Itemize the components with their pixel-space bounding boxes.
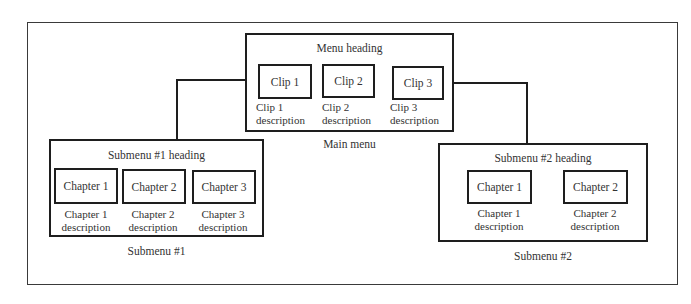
s2-ch1-desc-line2: description (467, 220, 531, 233)
s1-ch1-desc-line1: Chapter 1 (54, 208, 118, 221)
clip-2-button[interactable]: Clip 2 (322, 64, 375, 98)
submenu-1-heading: Submenu #1 heading (49, 149, 264, 161)
submenu-2-chapter-2-label: Chapter 2 (573, 181, 618, 193)
clip-1-label: Clip 1 (271, 76, 299, 88)
s1-ch2-desc-line1: Chapter 2 (121, 208, 185, 221)
submenu-1-chapter-2-button[interactable]: Chapter 2 (122, 169, 186, 204)
clip-3-description: Clip 3 description (390, 101, 452, 127)
connector-right-vertical (526, 82, 528, 144)
clip-1-button[interactable]: Clip 1 (258, 64, 312, 99)
s1-ch3-desc-line1: Chapter 3 (191, 208, 255, 221)
s2-ch2-desc-line2: description (563, 220, 627, 233)
submenu-1-chapter-3-label: Chapter 3 (201, 181, 246, 193)
main-menu-heading: Menu heading (245, 42, 454, 54)
s1-ch1-desc-line2: description (54, 221, 118, 234)
submenu-2-heading: Submenu #2 heading (438, 152, 648, 164)
s2-ch1-desc-line1: Chapter 1 (467, 207, 531, 220)
clip-2-description: Clip 2 description (322, 101, 384, 127)
clip-2-desc-line1: Clip 2 (322, 101, 384, 114)
clip-3-desc-line1: Clip 3 (390, 101, 452, 114)
submenu-1-chapter-3-description: Chapter 3 description (191, 208, 255, 234)
submenu-2-chapter-1-button[interactable]: Chapter 1 (467, 170, 532, 204)
clip-1-desc-line1: Clip 1 (256, 101, 318, 114)
clip-1-desc-line2: description (256, 114, 318, 127)
clip-2-label: Clip 2 (334, 75, 362, 87)
s1-ch2-desc-line2: description (121, 221, 185, 234)
connector-right-horizontal (442, 82, 528, 84)
submenu-1-chapter-2-label: Chapter 2 (131, 181, 176, 193)
submenu-2-caption: Submenu #2 (438, 250, 648, 262)
submenu-2-chapter-1-label: Chapter 1 (477, 181, 522, 193)
clip-3-desc-line2: description (390, 114, 452, 127)
submenu-1-caption: Submenu #1 (49, 245, 264, 257)
submenu-1-chapter-1-description: Chapter 1 description (54, 208, 118, 234)
submenu-1-chapter-1-button[interactable]: Chapter 1 (54, 168, 118, 204)
submenu-2-chapter-2-description: Chapter 2 description (563, 207, 627, 233)
main-menu-caption: Main menu (245, 138, 454, 150)
clip-2-desc-line2: description (322, 114, 384, 127)
s2-ch2-desc-line1: Chapter 2 (563, 207, 627, 220)
clip-3-label: Clip 3 (404, 77, 432, 89)
submenu-2-chapter-1-description: Chapter 1 description (467, 207, 531, 233)
submenu-1-chapter-3-button[interactable]: Chapter 3 (192, 170, 256, 204)
clip-3-button[interactable]: Clip 3 (392, 66, 444, 100)
s1-ch3-desc-line2: description (191, 221, 255, 234)
submenu-2-chapter-2-button[interactable]: Chapter 2 (563, 170, 628, 204)
clip-1-description: Clip 1 description (256, 101, 318, 127)
submenu-1-chapter-2-description: Chapter 2 description (121, 208, 185, 234)
submenu-1-chapter-1-label: Chapter 1 (63, 180, 108, 192)
connector-left-vertical (176, 79, 178, 140)
